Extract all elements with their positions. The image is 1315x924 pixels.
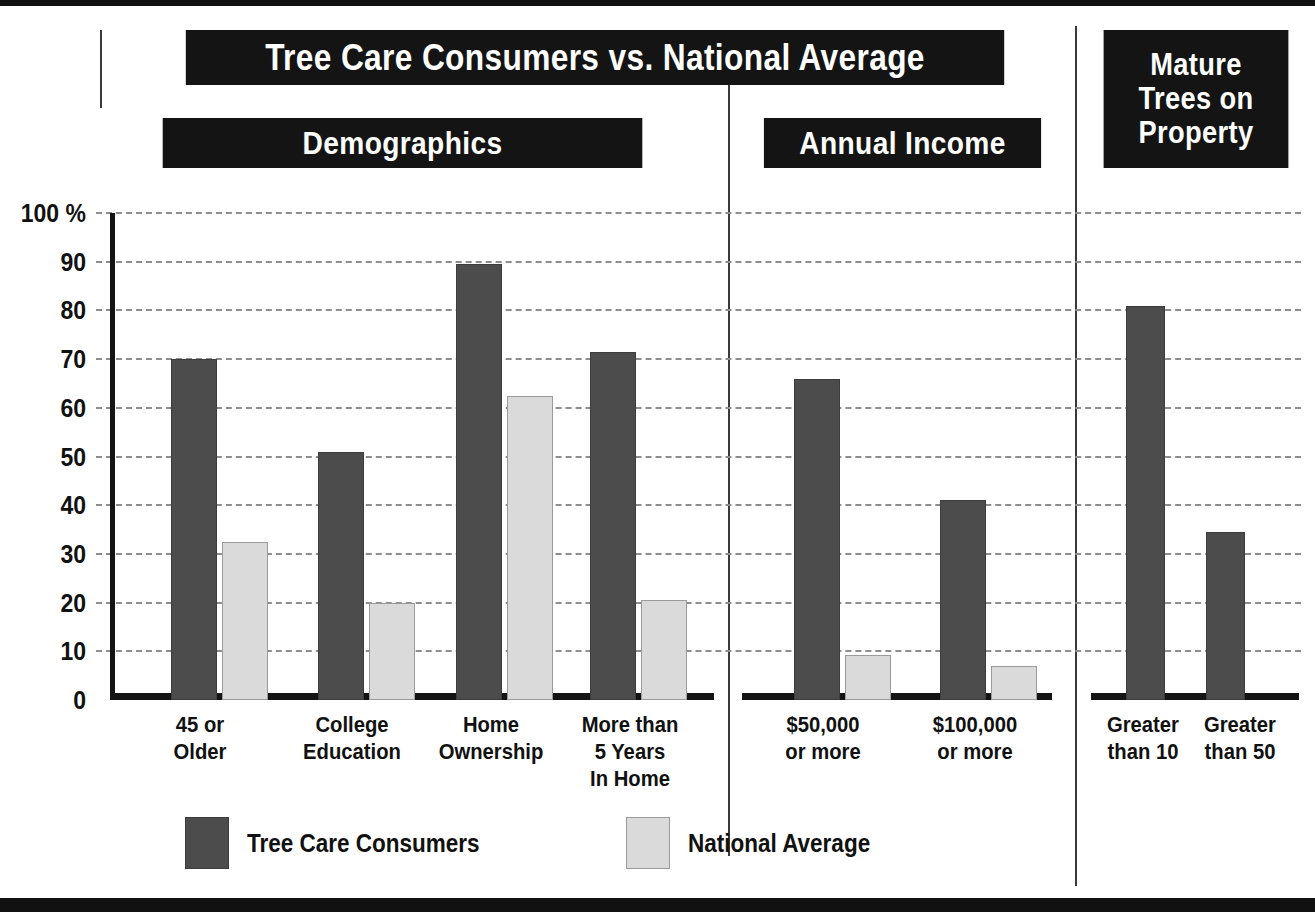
legend-swatch-light-icon — [626, 817, 670, 869]
mature-trees-line-1: Mature — [1150, 48, 1242, 82]
bar-p0-g0-tree-care-consumers — [171, 359, 217, 700]
mature-trees-line-2: Trees on — [1138, 82, 1253, 116]
bar-p0-g2-tree-care-consumers — [456, 264, 502, 700]
category-label-line: than 50 — [1189, 739, 1290, 766]
category-label-line: or more — [901, 739, 1048, 766]
category-label-4: $50,000or more — [754, 712, 892, 766]
bar-p0-g3-national-average — [641, 600, 687, 700]
category-label-line: $100,000 — [901, 712, 1048, 739]
section-header-annual-income: Annual Income — [764, 118, 1041, 168]
legend-label-national-average: National Average — [688, 829, 870, 858]
category-label-line: Ownership — [422, 739, 560, 766]
category-label-line: College — [283, 712, 421, 739]
top-rule — [0, 0, 1315, 6]
category-label-line: In Home — [552, 766, 708, 793]
category-label-line: Home — [422, 712, 560, 739]
category-label-line: Education — [283, 739, 421, 766]
bar-p0-g2-national-average — [507, 396, 553, 700]
bar-p0-g0-national-average — [222, 542, 268, 700]
category-label-line: or more — [754, 739, 892, 766]
category-label-line: 45 or — [136, 712, 265, 739]
chart-title-banner: Tree Care Consumers vs. National Average — [186, 30, 1004, 85]
category-label-line: than 10 — [1092, 739, 1193, 766]
category-label-line: Greater — [1092, 712, 1193, 739]
category-label-7: Greaterthan 50 — [1189, 712, 1290, 766]
chart-page: Tree Care Consumers vs. National Average… — [0, 0, 1315, 924]
plot-area: 100 %9080706050403020100 — [0, 195, 1315, 715]
category-label-line: 5 Years — [552, 739, 708, 766]
divider-left — [100, 30, 102, 108]
category-label-1: CollegeEducation — [283, 712, 421, 766]
bar-p1-g1-tree-care-consumers — [940, 500, 986, 700]
category-label-line: More than — [552, 712, 708, 739]
bar-p0-g1-national-average — [369, 603, 415, 700]
category-label-line: $50,000 — [754, 712, 892, 739]
category-label-3: More than5 YearsIn Home — [552, 712, 708, 792]
legend-label-tree-care-consumers: Tree Care Consumers — [247, 829, 480, 858]
mature-trees-line-3: Property — [1138, 116, 1253, 150]
section-header-demographics: Demographics — [163, 118, 643, 168]
section-header-mature-trees: Mature Trees on Property — [1104, 30, 1289, 168]
category-label-line: Greater — [1189, 712, 1290, 739]
bar-p0-g3-tree-care-consumers — [590, 352, 636, 700]
bar-p1-g0-national-average — [845, 655, 891, 700]
category-label-5: $100,000or more — [901, 712, 1048, 766]
bar-p1-g1-national-average — [991, 666, 1037, 700]
bar-p2-g1-tree-care-consumers — [1206, 532, 1245, 700]
bar-p0-g1-tree-care-consumers — [318, 452, 364, 700]
bar-p2-g0-tree-care-consumers — [1126, 306, 1165, 700]
category-label-6: Greaterthan 10 — [1092, 712, 1193, 766]
category-label-2: HomeOwnership — [422, 712, 560, 766]
category-label-line: Older — [136, 739, 265, 766]
legend-item-tree-care-consumers: Tree Care Consumers — [185, 817, 505, 869]
bottom-rule — [0, 898, 1315, 912]
legend-item-national-average: National Average — [626, 817, 890, 869]
chart-legend: Tree Care Consumers National Average — [0, 815, 1075, 871]
legend-swatch-dark-icon — [185, 817, 229, 869]
category-label-0: 45 orOlder — [136, 712, 265, 766]
bar-series-container — [0, 195, 1315, 715]
bar-p1-g0-tree-care-consumers — [794, 379, 840, 700]
